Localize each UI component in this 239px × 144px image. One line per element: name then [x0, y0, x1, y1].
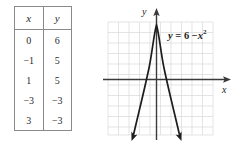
values-table: x y 0 6 −1 5 1 5 −3 −3 3 −3	[14, 6, 72, 131]
table-body: x y 0 6 −1 5 1 5 −3 −3 3 −3	[15, 7, 72, 131]
cell-x: −1	[15, 50, 44, 70]
table-row: −3 −3	[15, 90, 72, 110]
cell-y: 5	[43, 70, 72, 90]
x-axis-label: x	[222, 84, 226, 95]
table-row: −1 5	[15, 50, 72, 70]
column-header-x: x	[15, 7, 44, 30]
math-figure: x y 0 6 −1 5 1 5 −3 −3 3 −3	[0, 0, 239, 144]
cell-x: 3	[15, 110, 44, 131]
cell-y: 5	[43, 50, 72, 70]
cell-x: 1	[15, 70, 44, 90]
graph-canvas	[100, 0, 239, 144]
cell-x: −3	[15, 90, 44, 110]
table-row: 0 6	[15, 30, 72, 51]
cell-y: −3	[43, 110, 72, 131]
equation-constant: 6	[184, 30, 189, 41]
table-header-row: x y	[15, 7, 72, 30]
table-row: 3 −3	[15, 110, 72, 131]
equation-lhs: y	[168, 30, 173, 41]
equation-annotation: y = 6 −x2	[168, 28, 207, 41]
equation-exponent: 2	[203, 28, 207, 36]
y-axis-label: y	[142, 6, 146, 17]
column-header-y: y	[43, 7, 72, 30]
cell-x: 0	[15, 30, 44, 51]
cell-y: −3	[43, 90, 72, 110]
table-row: 1 5	[15, 70, 72, 90]
equation-equals: =	[175, 30, 181, 41]
parabola-graph	[100, 0, 239, 144]
cell-y: 6	[43, 30, 72, 51]
